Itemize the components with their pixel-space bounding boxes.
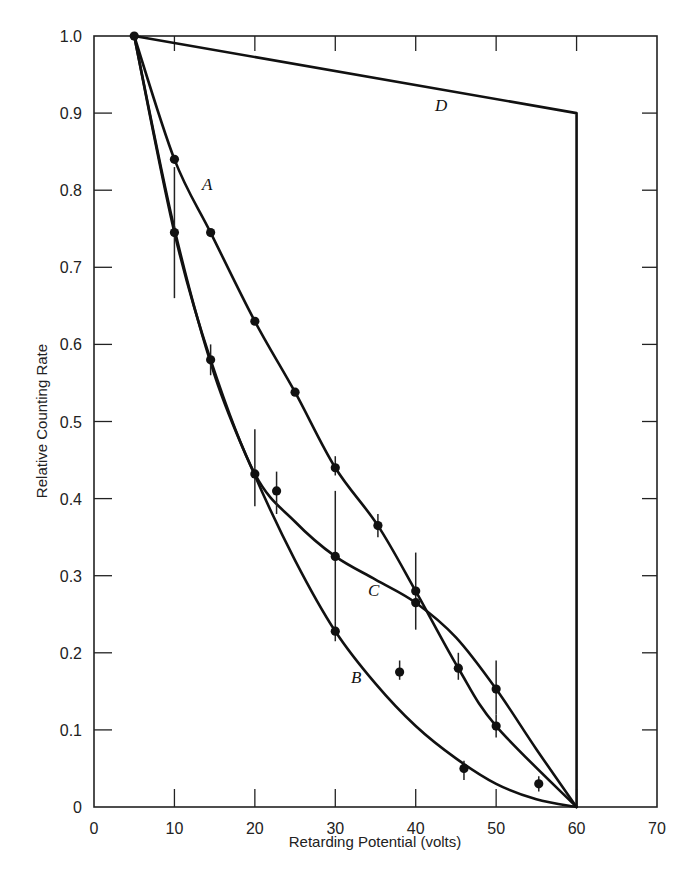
y-tick-label: 1.0 [60, 28, 82, 45]
data-point [411, 587, 420, 596]
data-point [454, 664, 463, 673]
data-point [206, 228, 215, 237]
curve-a [134, 36, 576, 807]
error-bars [174, 167, 538, 792]
y-tick-label: 0.4 [60, 491, 82, 508]
y-tick-label: 0.6 [60, 336, 82, 353]
data-point [250, 317, 259, 326]
y-tick-label: 0 [73, 799, 82, 816]
x-axis-title: Retarding Potential (volts) [289, 833, 462, 850]
data-point [459, 764, 468, 773]
data-point [206, 355, 215, 364]
axis-ticks: 01020304050607000.10.20.30.40.50.60.70.8… [60, 28, 666, 837]
y-axis-title: Relative Counting Rate [33, 344, 50, 498]
y-tick-label: 0.2 [60, 645, 82, 662]
data-point [534, 779, 543, 788]
x-tick-label: 0 [90, 820, 99, 837]
data-point [395, 667, 404, 676]
data-point [170, 228, 179, 237]
y-tick-label: 0.9 [60, 105, 82, 122]
data-point [130, 31, 139, 40]
data-point [290, 388, 299, 397]
curve-d [134, 36, 576, 807]
data-point [331, 627, 340, 636]
data-point [492, 721, 501, 730]
x-tick-label: 60 [568, 820, 586, 837]
data-points [130, 31, 544, 788]
curve-b [134, 36, 576, 807]
curves [134, 36, 576, 807]
y-tick-label: 0.3 [60, 568, 82, 585]
labels: Retarding Potential (volts) Relative Cou… [33, 96, 461, 850]
x-tick-label: 50 [487, 820, 505, 837]
data-point [411, 598, 420, 607]
data-point [250, 469, 259, 478]
curve-c [134, 36, 576, 807]
y-tick-label: 0.1 [60, 722, 82, 739]
plot-frame [94, 36, 657, 807]
data-point [272, 486, 281, 495]
data-point [331, 463, 340, 472]
y-tick-label: 0.8 [60, 182, 82, 199]
y-tick-label: 0.7 [60, 259, 82, 276]
x-tick-label: 70 [648, 820, 666, 837]
curve-label-d: D [434, 96, 448, 115]
chart: 01020304050607000.10.20.30.40.50.60.70.8… [0, 0, 700, 874]
curve-label-b: B [351, 668, 362, 687]
curve-label-c: C [368, 581, 380, 600]
curve-label-a: A [201, 175, 213, 194]
x-tick-label: 20 [246, 820, 264, 837]
plot-border [94, 36, 657, 807]
data-point [373, 521, 382, 530]
data-point [170, 155, 179, 164]
y-tick-label: 0.5 [60, 414, 82, 431]
data-point [492, 684, 501, 693]
x-tick-label: 10 [166, 820, 184, 837]
data-point [331, 552, 340, 561]
